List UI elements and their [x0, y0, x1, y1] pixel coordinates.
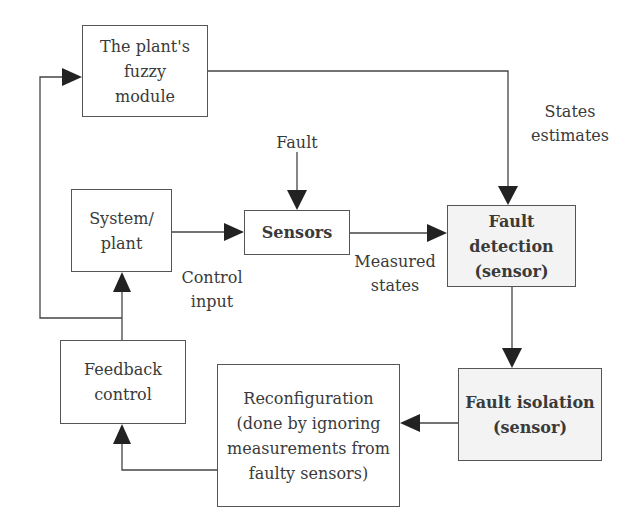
node-fault-detection: Fault detection (sensor): [447, 205, 576, 287]
arrowhead-icon: [498, 186, 518, 205]
node-reconfiguration: Reconfiguration (done by ignoring measur…: [217, 364, 400, 507]
arrowhead-icon: [62, 68, 82, 86]
arrowhead-icon: [427, 224, 447, 242]
arrowhead-icon: [400, 414, 420, 432]
node-feedback-control: Feedback control: [60, 340, 186, 424]
label-fault: Fault: [272, 131, 322, 155]
node-fuzzy-module: The plant's fuzzy module: [82, 25, 208, 117]
node-system-plant: System/ plant: [71, 189, 172, 272]
edge-fuzzy-to-detection: [208, 71, 508, 186]
arrowhead-icon: [287, 190, 307, 210]
node-sensors: Sensors: [244, 210, 350, 255]
label-states-estimates: States estimates: [520, 100, 620, 148]
arrowhead-icon: [502, 348, 522, 368]
arrowhead-icon: [113, 272, 131, 292]
arrowhead-icon: [113, 424, 131, 444]
label-control-input: Control input: [172, 266, 252, 314]
label-measured-states: Measured states: [350, 250, 440, 298]
edge-reconfig-to-feedback: [122, 444, 217, 470]
arrowhead-icon: [224, 223, 244, 241]
node-fault-isolation: Fault isolation (sensor): [458, 368, 602, 461]
